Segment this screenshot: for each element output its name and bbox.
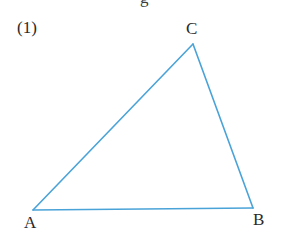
triangle-figure: g (1) C A B (0, 0, 288, 245)
triangle-abc (0, 0, 288, 245)
vertex-label-c: C (186, 20, 197, 38)
edge-ab (33, 208, 253, 210)
edge-ca (33, 44, 193, 210)
vertex-label-b: B (253, 211, 264, 229)
edge-bc (193, 44, 253, 208)
vertex-label-a: A (24, 214, 36, 232)
